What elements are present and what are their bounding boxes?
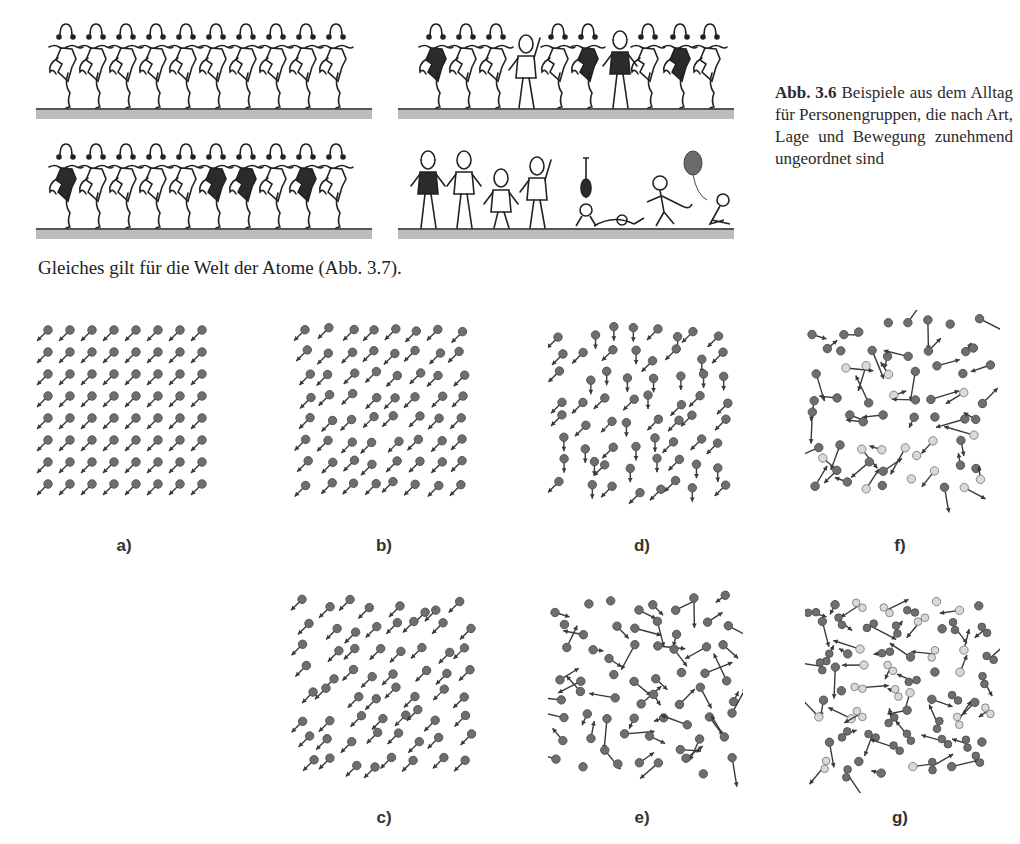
atoms-lattice-illustration bbox=[30, 318, 220, 513]
atoms-panel-c bbox=[290, 590, 485, 794]
dancers-row-ordered-illustration bbox=[36, 8, 376, 120]
atoms-panel-e bbox=[548, 588, 743, 797]
dancers-panel-top-right bbox=[398, 8, 738, 120]
figure-number: Abb. 3.6 bbox=[775, 83, 837, 102]
atoms-displaced-mixed-direction-illustration bbox=[548, 318, 738, 513]
atoms-random-motion-illustration bbox=[548, 588, 743, 793]
dancers-row-dark-dresses-illustration bbox=[36, 128, 376, 243]
label-g: g) bbox=[870, 808, 930, 828]
atoms-panel-b bbox=[290, 318, 480, 517]
label-e: e) bbox=[612, 808, 672, 828]
atoms-panel-g bbox=[805, 588, 1000, 797]
body-text-paragraph: Gleiches gilt für die Welt der Atome (Ab… bbox=[38, 257, 402, 279]
label-f: f) bbox=[870, 536, 930, 556]
atoms-panel-f bbox=[805, 310, 1000, 519]
atoms-strongly-displaced-illustration bbox=[290, 590, 485, 790]
atoms-two-types-random-illustration bbox=[805, 310, 1000, 515]
disordered-people-illustration bbox=[398, 128, 738, 243]
figure-caption: Abb. 3.6 Beispiele aus dem Alltag für Pe… bbox=[775, 82, 1013, 170]
label-d: d) bbox=[612, 536, 672, 556]
people-panel-disordered bbox=[398, 128, 738, 243]
dancers-row-mixed-illustration bbox=[398, 8, 738, 120]
dancers-panel-bottom-left bbox=[36, 128, 376, 243]
label-a: a) bbox=[94, 536, 154, 556]
atoms-panel-d bbox=[548, 318, 738, 517]
atoms-displaced-illustration bbox=[290, 318, 480, 513]
atoms-panel-a bbox=[30, 318, 220, 517]
dancers-panel-top-left bbox=[36, 8, 376, 120]
label-c: c) bbox=[354, 808, 414, 828]
atoms-molecules-random-illustration bbox=[805, 588, 1000, 793]
label-b: b) bbox=[354, 536, 414, 556]
